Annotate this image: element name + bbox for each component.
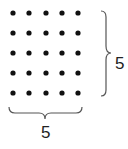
right-brace-icon <box>101 11 111 96</box>
bottom-brace-icon <box>9 107 82 119</box>
row-count-label: 5 <box>115 55 124 72</box>
column-count-label: 5 <box>41 124 50 141</box>
dot-array-diagram <box>0 0 128 149</box>
dot-grid <box>10 10 80 95</box>
